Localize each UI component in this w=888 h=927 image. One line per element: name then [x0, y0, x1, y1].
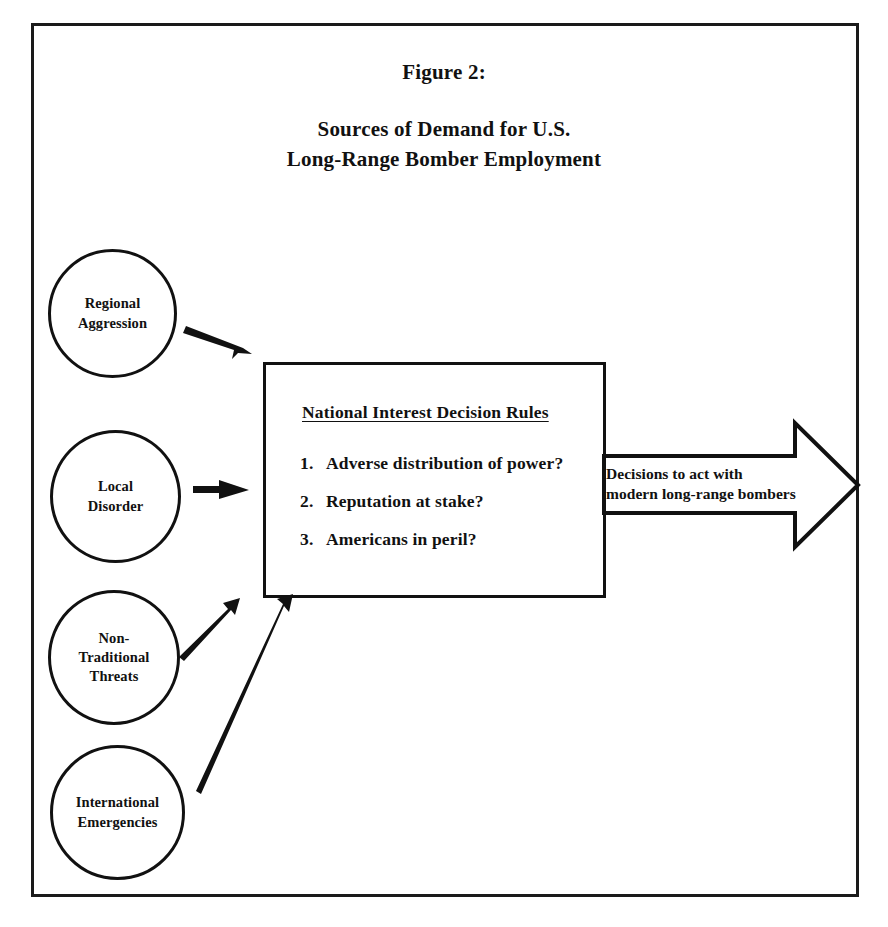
decision-rule-text: Americans in peril? — [326, 529, 477, 549]
decision-rules-heading: National Interest Decision Rules — [302, 402, 549, 423]
outcome-label-line-2: modern long-range bombers — [606, 484, 821, 504]
figure-canvas: Figure 2: Sources of Demand for U.S. Lon… — [0, 0, 888, 927]
source-node-regional-aggression[interactable]: Regional Aggression — [48, 249, 177, 378]
figure-title-line-2: Long-Range Bomber Employment — [0, 145, 888, 175]
source-node-local-disorder[interactable]: Local Disorder — [50, 430, 181, 563]
outcome-label-line-1: Decisions to act with — [606, 464, 821, 484]
outcome-label: Decisions to act with modern long-range … — [606, 464, 821, 503]
decision-rule-item: 3.Americans in peril? — [300, 529, 477, 550]
source-node-label: International Emergencies — [70, 793, 165, 831]
figure-title: Sources of Demand for U.S. Long-Range Bo… — [0, 115, 888, 175]
decision-rule-item: 2.Reputation at stake? — [300, 491, 484, 512]
decision-rule-number: 3. — [300, 529, 326, 550]
source-node-label: Non- Traditional Threats — [73, 629, 156, 686]
decision-rule-text: Reputation at stake? — [326, 491, 484, 511]
decision-rule-text: Adverse distribution of power? — [326, 453, 563, 473]
figure-title-block: Figure 2: Sources of Demand for U.S. Lon… — [0, 60, 888, 175]
source-node-non-traditional-threats[interactable]: Non- Traditional Threats — [48, 590, 180, 725]
decision-rule-number: 2. — [300, 491, 326, 512]
decision-rule-number: 1. — [300, 453, 326, 474]
decision-rules-box[interactable]: National Interest Decision Rules 1.Adver… — [263, 362, 606, 598]
source-node-label: Regional Aggression — [72, 294, 153, 332]
source-node-label: Local Disorder — [82, 477, 150, 515]
source-node-international-emergencies[interactable]: International Emergencies — [50, 745, 185, 880]
decision-rule-item: 1.Adverse distribution of power? — [300, 453, 563, 474]
figure-title-line-1: Sources of Demand for U.S. — [0, 115, 888, 145]
figure-label: Figure 2: — [0, 60, 888, 85]
